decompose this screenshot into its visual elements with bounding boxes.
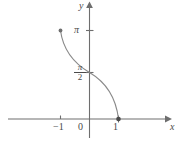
x-tick-label-negative-one: −1 xyxy=(53,122,64,132)
fraction-denominator: 2 xyxy=(73,73,87,82)
x-tick-label-zero: 0 xyxy=(78,122,83,132)
x-tick-label-one: 1 xyxy=(113,122,118,132)
endpoint-dot-left xyxy=(59,29,63,33)
y-axis-arrowhead xyxy=(86,2,93,9)
plot-canvas xyxy=(0,0,183,147)
y-tick-label-pi-over-two: π 2 xyxy=(73,63,87,82)
x-axis-label: x xyxy=(170,122,174,132)
fraction-numerator: π xyxy=(73,63,87,72)
y-tick-label-pi: π xyxy=(74,25,79,35)
arccos-graph-figure: y x π π 2 −1 0 1 xyxy=(0,0,183,147)
y-axis-label: y xyxy=(79,1,83,11)
